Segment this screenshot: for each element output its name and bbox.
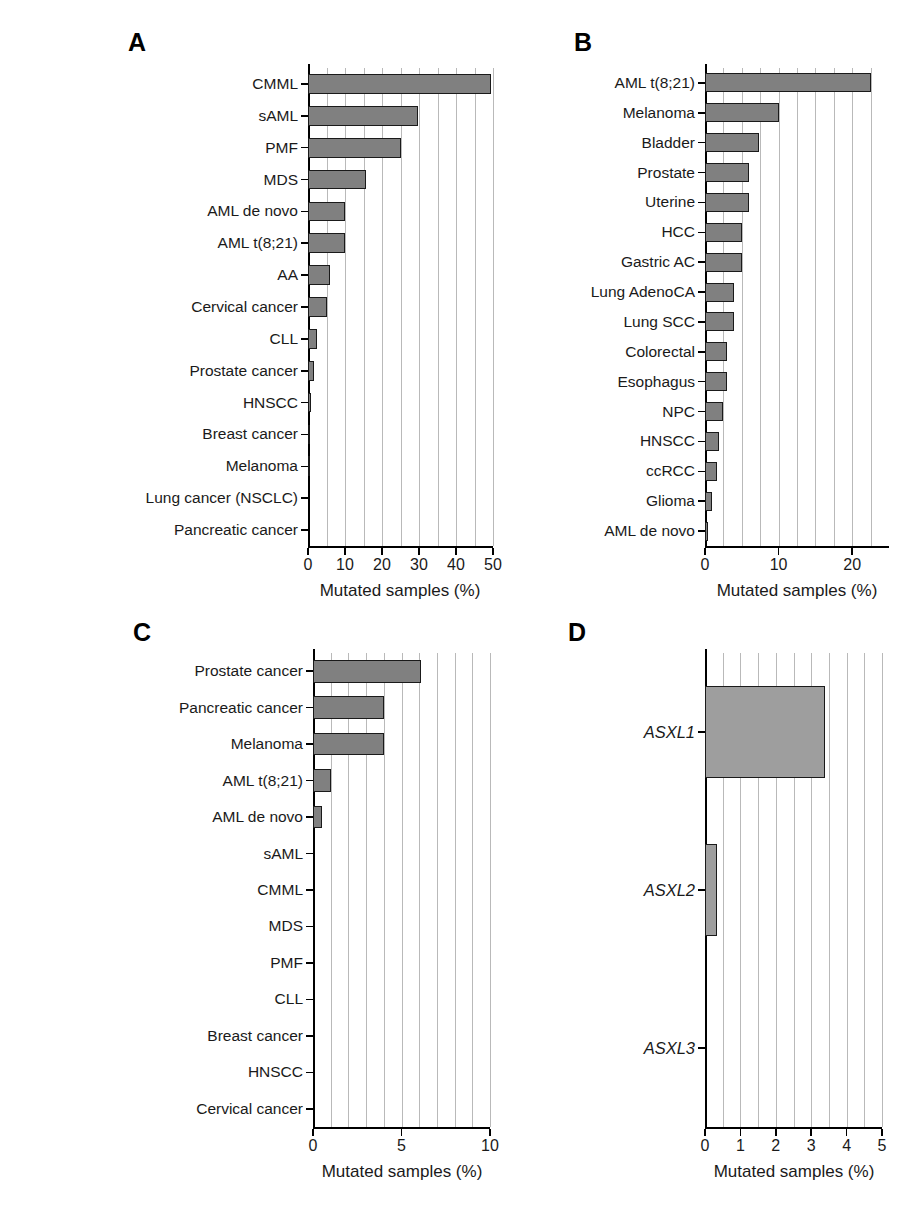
x-axis-tick-label: 4: [842, 1138, 851, 1154]
x-axis-tick: [775, 1129, 777, 1136]
x-axis-tick: [846, 1129, 848, 1136]
y-axis-label: ASXL2: [644, 882, 695, 899]
x-axis-tick: [740, 1129, 742, 1136]
x-axis-tick-label: 3: [807, 1138, 816, 1154]
gridline: [847, 653, 848, 1127]
x-axis-tick-label: 2: [771, 1138, 780, 1154]
gridline: [864, 653, 865, 1127]
y-axis-tick: [698, 731, 705, 733]
panel-d-plot-area: ASXL1ASXL2ASXL3012345: [705, 653, 882, 1127]
panel-d-x-axis-title: Mutated samples (%): [714, 1163, 875, 1180]
panel-d-label: D: [568, 620, 586, 645]
y-axis-label: ASXL1: [644, 724, 695, 741]
panel-d-canvas: ASXL1ASXL2ASXL3012345: [705, 653, 882, 1127]
x-axis-tick-label: 0: [701, 1138, 710, 1154]
y-axis-tick: [698, 889, 705, 891]
y-axis-tick: [698, 1047, 705, 1049]
x-axis-tick: [810, 1129, 812, 1136]
panel-d-x-axis: [705, 1127, 882, 1129]
bar: [705, 686, 825, 778]
x-axis-tick-label: 1: [736, 1138, 745, 1154]
x-axis-tick: [881, 1129, 883, 1136]
gridline: [882, 653, 883, 1127]
y-axis-label: ASXL3: [644, 1040, 695, 1057]
bar: [705, 844, 717, 936]
panel-d: D ASXL1ASXL2ASXL3012345 Mutated samples …: [0, 0, 915, 1218]
gridline: [829, 653, 830, 1127]
x-axis-tick-label: 5: [878, 1138, 887, 1154]
figure-asxl-mutation-frequency: A CMMLsAMLPMFMDSAML de novoAML t(8;21)AA…: [0, 0, 915, 1218]
x-axis-tick: [704, 1129, 706, 1136]
